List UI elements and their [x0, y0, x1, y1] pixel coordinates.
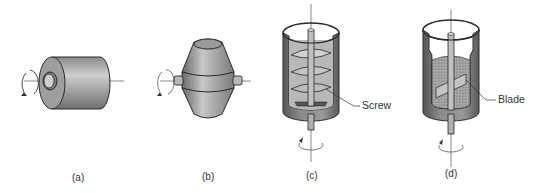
panel-c-screw-mixer — [283, 4, 360, 162]
mixer-types-figure: (a) (b) (c) (d) Screw Blade — [0, 0, 540, 193]
caption-b: (b) — [202, 171, 214, 182]
caption-c: (c) — [306, 170, 318, 181]
panel-d-blade-mixer — [423, 10, 496, 167]
caption-d: (d) — [445, 168, 457, 179]
screw-label: Screw — [362, 99, 391, 111]
blade-label: Blade — [498, 93, 525, 105]
panel-b-double-cone-drum — [157, 39, 251, 118]
panel-a-cylinder-drum — [21, 57, 124, 109]
caption-a: (a) — [72, 172, 84, 183]
